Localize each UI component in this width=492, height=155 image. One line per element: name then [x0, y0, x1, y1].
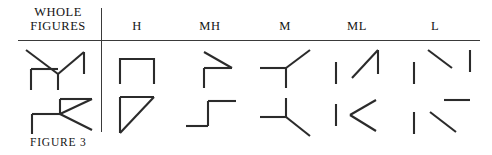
- whole-figures-vertical-divider: [101, 8, 102, 132]
- whole-figure-row2: [16, 96, 100, 136]
- fragment-ml-row1: [330, 48, 394, 88]
- whole-figures-header-line1: WHOLE: [18, 6, 98, 20]
- column-header-ml: ML: [326, 20, 388, 33]
- fragment-ml-row2: [330, 98, 394, 136]
- fragment-m-row2: [258, 96, 320, 138]
- header-horizontal-rule: [18, 40, 480, 41]
- figure-caption: FIGURE 3: [30, 136, 87, 148]
- fragment-m-row1: [258, 48, 320, 90]
- fragment-l-row2: [404, 96, 480, 138]
- fragment-mh-row2: [186, 98, 250, 134]
- whole-figures-header: WHOLE FIGURES: [18, 6, 98, 33]
- fragment-l-row1: [404, 48, 480, 88]
- column-header-m: M: [256, 20, 314, 33]
- whole-figures-header-line2: FIGURES: [18, 20, 98, 34]
- figure-3-container: WHOLE FIGURES H MH M ML L: [0, 0, 492, 155]
- column-header-h: H: [108, 20, 166, 33]
- fragment-mh-row1: [188, 50, 248, 90]
- fragment-h-row2: [116, 95, 170, 137]
- whole-figure-row1: [16, 48, 100, 90]
- fragment-h-row1: [116, 56, 170, 86]
- column-header-mh: MH: [178, 20, 242, 33]
- column-header-l: L: [404, 20, 466, 33]
